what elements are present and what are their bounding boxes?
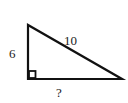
horizontal-leg-label: ? [56,85,62,100]
vertical-leg-label: 6 [9,46,16,61]
hypotenuse-label: 10 [64,33,77,48]
right-angle-marker [29,71,36,78]
triangle-diagram: 6 10 ? [0,0,128,103]
